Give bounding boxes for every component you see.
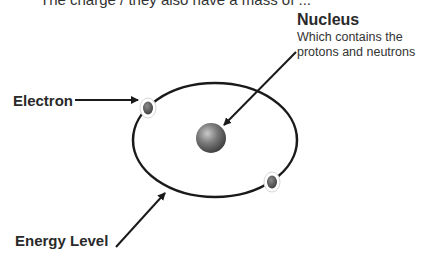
nucleus-sphere bbox=[196, 123, 226, 153]
nucleus-description-line-2: protons and neutrons bbox=[297, 45, 415, 60]
nucleus-description-line-1: Which contains the bbox=[297, 30, 415, 45]
electron-1 bbox=[140, 98, 156, 118]
electron-label: Electron bbox=[13, 92, 73, 109]
electron-2 bbox=[264, 172, 280, 192]
energy-level-arrow bbox=[116, 193, 165, 247]
nucleus-arrow bbox=[224, 52, 296, 125]
energy-level-label: Energy Level bbox=[15, 232, 108, 249]
nucleus-description: Which contains the protons and neutrons bbox=[297, 30, 415, 60]
nucleus-label: Nucleus bbox=[297, 11, 359, 29]
